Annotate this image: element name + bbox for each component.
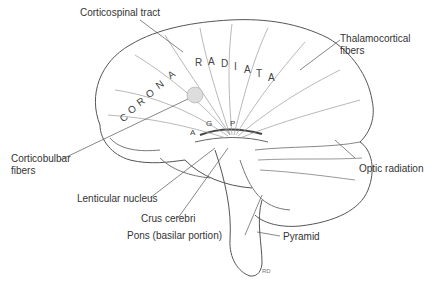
label-pyramid: Pyramid <box>283 231 320 242</box>
label-pons-basilar: Pons (basilar portion) <box>127 230 222 241</box>
radiata-letter: A <box>244 64 251 75</box>
radiata-letter: D <box>221 58 228 69</box>
radiata-letter: A <box>268 72 275 83</box>
radiata-letter: A <box>208 56 215 67</box>
radiata-letter: R <box>195 57 202 68</box>
label-lenticular-nucleus: Lenticular nucleus <box>77 193 158 204</box>
artist-signature: RD <box>262 268 271 274</box>
label-corticobulbar-fibers-line1: Corticobulbar <box>11 153 70 164</box>
label-corticobulbar-fibers-line2: fibers <box>11 165 35 176</box>
radiata-letter: I <box>234 61 237 72</box>
label-optic-radiation: Optic radiation <box>359 163 423 174</box>
label-thalamocortical-fibers-line1: Thalamocortical <box>340 33 411 44</box>
capsule-letter-anterior: A <box>190 128 195 137</box>
label-crus-cerebri: Crus cerebri <box>141 213 195 224</box>
capsule-letter-genu: G <box>206 119 212 128</box>
label-thalamocortical-fibers-line2: fibers <box>340 45 364 56</box>
label-corticospinal-tract: Corticospinal tract <box>80 7 160 18</box>
brain-illustration: Corticospinal tract Thalamocortical fibe… <box>0 0 436 284</box>
radiata-letter: T <box>256 68 262 79</box>
capsule-letter-posterior: P <box>230 119 235 128</box>
